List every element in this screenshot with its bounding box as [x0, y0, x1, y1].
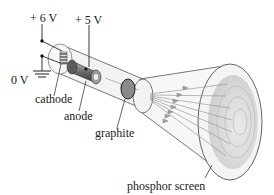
label-phosphor-screen: phosphor screen: [127, 180, 205, 192]
label-graphite: graphite: [95, 127, 134, 139]
junction-dot: [40, 39, 43, 42]
junction-dot: [40, 54, 43, 57]
label-plus-5v: + 5 V: [75, 14, 102, 26]
label-0v: 0 V: [11, 74, 28, 86]
graphite-electrode: [121, 79, 135, 99]
label-cathode: cathode: [35, 93, 72, 105]
label-plus-6v: + 6 V: [30, 12, 57, 24]
cathode-coil: [60, 52, 67, 64]
ground-icon: [33, 71, 51, 77]
label-anode: anode: [64, 110, 93, 122]
